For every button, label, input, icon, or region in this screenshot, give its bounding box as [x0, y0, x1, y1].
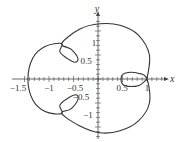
- y-tick-label: −1: [83, 110, 93, 120]
- y-tick-label: 0.5: [80, 56, 92, 66]
- polar-curve-plot: x y −1.5−1−0.50.51 10.5−0.5−1: [0, 0, 177, 142]
- x-tick-label: −1: [44, 83, 54, 93]
- x-tick-label: −1.5: [10, 83, 27, 93]
- y-tick-label: −0.5: [73, 92, 90, 102]
- x-axis-label: x: [169, 73, 175, 84]
- x-axis-arrow-icon: [164, 77, 169, 81]
- y-tick-label: 1: [92, 38, 97, 48]
- y-axis-label: y: [94, 3, 100, 14]
